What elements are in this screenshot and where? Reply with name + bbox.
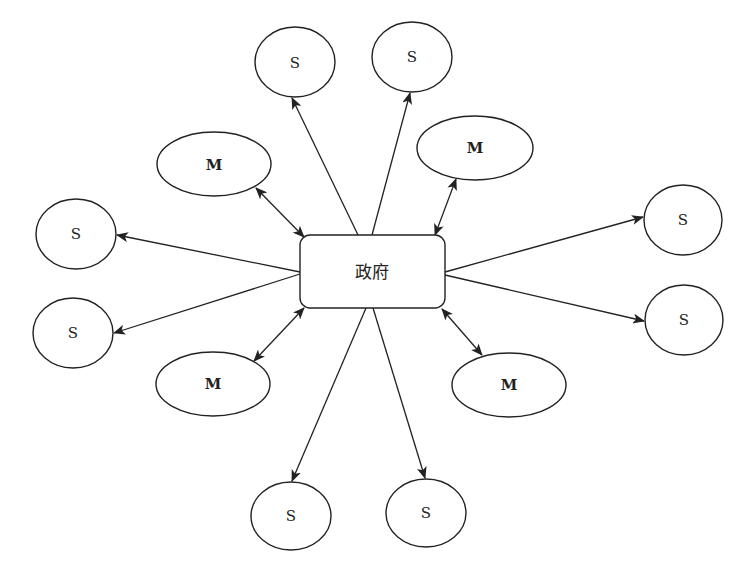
edge-to-s-left-bottom (114, 274, 300, 333)
node-label: M (501, 376, 518, 394)
node-m-bottom-left: M (156, 352, 270, 416)
node-label: M (206, 156, 223, 174)
node-label: M (467, 139, 484, 157)
edge-m-top-right (435, 179, 456, 235)
node-m-bottom-right: M (452, 353, 566, 417)
node-label: S (68, 324, 78, 342)
edge-to-s-top-right (372, 93, 410, 235)
edge-to-s-left-top (117, 235, 300, 272)
node-label: S (71, 225, 81, 243)
edge-to-s-right-bottom (445, 275, 644, 321)
edge-to-s-right-top (445, 217, 643, 272)
edge-to-s-top-left (292, 98, 358, 235)
node-label: S (678, 211, 688, 229)
edge-m-bottom-left (254, 308, 304, 361)
node-label: S (679, 311, 689, 329)
node-s-right-bottom: S (645, 285, 723, 355)
government-hub-diagram: 政府 S S M M S S S S M M (0, 0, 746, 578)
center-node-government: 政府 (300, 235, 445, 308)
edge-m-top-left (256, 188, 304, 237)
node-m-top-right: M (417, 116, 533, 180)
center-node-label: 政府 (355, 262, 389, 282)
node-s-right-top: S (644, 185, 722, 255)
node-s-left-bottom: S (33, 298, 113, 368)
node-s-left-top: S (36, 199, 116, 269)
node-label: S (286, 507, 296, 525)
edge-to-s-bottom-right (373, 308, 425, 478)
edge-to-s-bottom-left (292, 308, 366, 481)
node-s-top-right: S (372, 22, 452, 92)
node-label: S (290, 54, 300, 72)
edge-m-bottom-right (442, 309, 482, 355)
node-label: S (407, 48, 417, 66)
node-m-top-left: M (157, 132, 271, 196)
node-label: M (205, 375, 222, 393)
node-s-bottom-left: S (251, 482, 331, 550)
node-s-bottom-right: S (386, 479, 466, 547)
node-s-top-left: S (255, 27, 335, 97)
node-label: S (421, 504, 431, 522)
